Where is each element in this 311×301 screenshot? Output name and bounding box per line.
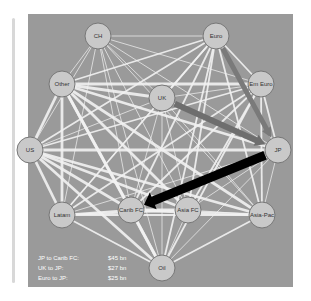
svg-text:Latam: Latam (54, 212, 71, 218)
svg-text:JP: JP (274, 147, 281, 153)
legend: JP to Carib FC:$45 bn UK to JP:$27 bn Eu… (38, 253, 126, 283)
legend-row: JP to Carib FC:$45 bn (38, 253, 126, 263)
node-us: US (17, 137, 43, 163)
svg-text:UK: UK (158, 95, 166, 101)
legend-row: Euro to JP:$25 bn (38, 273, 126, 283)
node-uk: UK (149, 85, 175, 111)
edge (62, 36, 216, 84)
svg-text:US: US (26, 147, 34, 153)
node-other: Other (49, 71, 75, 97)
svg-text:Oil: Oil (158, 265, 165, 271)
node-ch: CH (85, 23, 111, 49)
svg-text:Asia FC: Asia FC (177, 207, 199, 213)
svg-text:CH: CH (94, 33, 103, 39)
svg-text:Asia-Pac: Asia-Pac (250, 212, 274, 218)
edges (30, 36, 278, 268)
legend-row: UK to JP:$27 bn (38, 263, 126, 273)
svg-text:Other: Other (54, 81, 69, 87)
svg-text:Carib FC: Carib FC (119, 207, 144, 213)
node-asiafc: Asia FC (175, 197, 201, 223)
node-latam: Latam (49, 202, 75, 228)
node-oil: Oil (149, 255, 175, 281)
svg-text:Euro: Euro (210, 33, 223, 39)
node-emeuro: Em Euro (248, 71, 274, 97)
node-jp: JP (265, 137, 291, 163)
node-asiapac: Asia-Pac (249, 202, 275, 228)
node-euro: Euro (203, 23, 229, 49)
svg-text:Em Euro: Em Euro (249, 81, 273, 87)
nodes: CHEuroOtherUKEm EuroUSJPLatamCarib FCAsi… (17, 23, 291, 281)
node-caribfc: Carib FC (118, 197, 144, 223)
